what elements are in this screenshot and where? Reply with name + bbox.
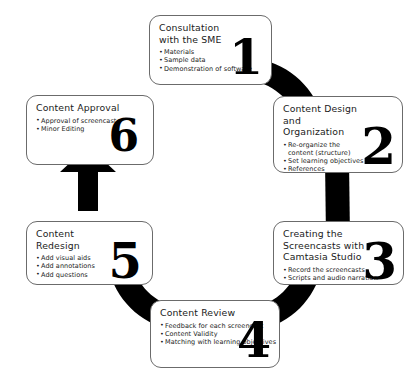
step-4-number: 4: [237, 316, 271, 365]
step-3-number: 3: [362, 237, 397, 285]
step-5-bullets: Add visual aids Add annotations Add ques…: [36, 254, 120, 279]
step-2-bullet-1: Re-organize the content (structure): [283, 141, 365, 157]
step-5-number: 5: [109, 237, 142, 285]
step-5-title: Content Redesign: [36, 228, 120, 251]
step-2-number: 2: [361, 122, 396, 172]
step-5-bullet-1: Add visual aids: [36, 254, 120, 262]
step-5-bullet-3: Add questions: [36, 271, 120, 279]
process-step-5[interactable]: Content Redesign Add visual aids Add ann…: [26, 221, 153, 285]
step-2-bullet-3: References: [283, 165, 365, 173]
process-step-4[interactable]: Content Review Feedback for each screenc…: [150, 300, 280, 368]
process-step-1[interactable]: Consultation with the SME Materials Samp…: [149, 15, 272, 85]
step-2-title: Content Design and Organization: [283, 103, 363, 138]
step-4-title: Content Review: [160, 307, 247, 319]
step-6-number: 6: [108, 114, 139, 158]
step-2-bullets: Re-organize the content (structure) Set …: [283, 141, 365, 173]
process-step-6[interactable]: Content Approval Approval of screencast …: [26, 95, 154, 165]
step-2-bullet-2: Set learning objectives: [283, 157, 365, 165]
step-1-number: 1: [229, 33, 263, 82]
process-step-2[interactable]: Content Design and Organization Re-organ…: [273, 96, 403, 173]
step-5-bullet-2: Add annotations: [36, 262, 120, 270]
process-step-3[interactable]: Creating the Screencasts with Camtasia S…: [273, 221, 404, 285]
diagram-canvas: Consultation with the SME Materials Samp…: [0, 0, 420, 385]
